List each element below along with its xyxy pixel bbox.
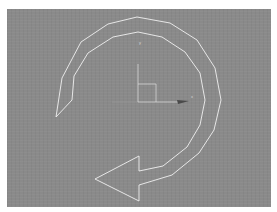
gizmo-xy-plane-handle[interactable]	[138, 84, 156, 102]
gizmo-x-arrow-icon	[177, 100, 189, 104]
viewport-overlay: y x	[0, 0, 277, 212]
gizmo-x-label: x	[191, 94, 193, 99]
gizmo-y-label: y	[139, 40, 141, 45]
